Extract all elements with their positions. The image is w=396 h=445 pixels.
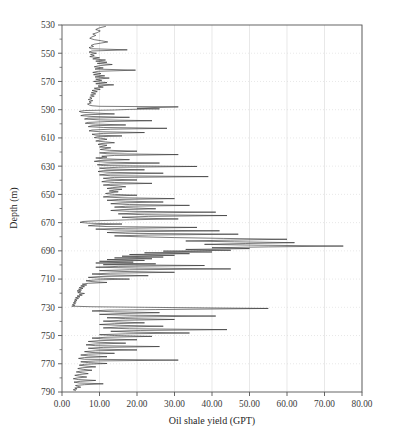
y-tick-label: 710 <box>41 274 55 284</box>
x-tick-label: 40.00 <box>202 399 223 409</box>
y-tick-label: 670 <box>41 218 55 228</box>
y-tick-label: 790 <box>41 387 55 397</box>
y-tick-label: 610 <box>41 133 55 143</box>
x-tick-label: 60.00 <box>277 399 298 409</box>
y-tick-label: 730 <box>41 303 55 313</box>
y-tick-label: 590 <box>41 105 55 115</box>
y-axis-title: Depth (m) <box>8 187 20 228</box>
oil-shale-yield-depth-chart: 0.0010.0020.0030.0040.0050.0060.0070.008… <box>0 0 396 445</box>
y-tick-label: 530 <box>41 20 55 30</box>
x-tick-label: 50.00 <box>239 399 260 409</box>
y-tick-label: 770 <box>41 359 55 369</box>
x-tick-label: 80.00 <box>352 399 373 409</box>
y-tick-label: 750 <box>41 331 55 341</box>
x-tick-label: 70.00 <box>314 399 335 409</box>
x-axis-title: Oil shale yield (GPT) <box>169 415 255 427</box>
x-tick-label: 30.00 <box>164 399 185 409</box>
y-tick-label: 690 <box>41 246 55 256</box>
chart-canvas: 0.0010.0020.0030.0040.0050.0060.0070.008… <box>0 0 396 445</box>
y-tick-label: 550 <box>41 49 55 59</box>
x-tick-label: 10.00 <box>89 399 110 409</box>
x-tick-label: 0.00 <box>54 399 71 409</box>
x-tick-label: 20.00 <box>127 399 148 409</box>
x-axis-tick-labels: 0.0010.0020.0030.0040.0050.0060.0070.008… <box>54 399 373 409</box>
y-tick-label: 650 <box>41 190 55 200</box>
y-tick-label: 630 <box>41 162 55 172</box>
y-tick-label: 570 <box>41 77 55 87</box>
